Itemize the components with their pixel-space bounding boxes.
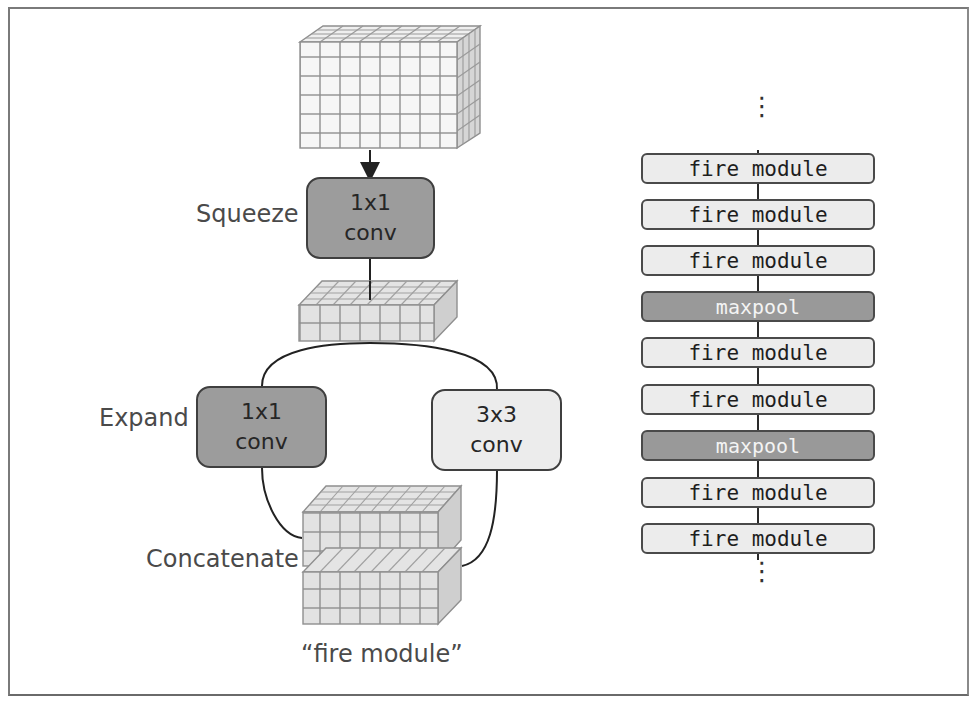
expand-1x1-op: conv [235, 427, 288, 457]
layer-fire-module-4: fire module [641, 337, 875, 368]
squeeze-kernel-size: 1x1 [350, 188, 391, 218]
bottom-ellipsis: ⋮ [749, 562, 775, 580]
output-tensor-bottom [303, 548, 461, 624]
expand-1x1-conv-box: 1x1 conv [196, 386, 327, 468]
squeeze-label: Squeeze [196, 200, 299, 228]
input-tensor [300, 26, 480, 148]
merge-connector-right [462, 470, 497, 566]
split-connector [262, 343, 497, 390]
layer-maxpool-2: maxpool [641, 430, 875, 461]
expand-3x3-op: conv [470, 430, 523, 460]
squeeze-conv-box: 1x1 conv [306, 177, 435, 259]
layer-fire-module-1: fire module [641, 153, 875, 184]
layer-maxpool-1: maxpool [641, 291, 875, 322]
merge-connector-left [262, 468, 302, 538]
expand-1x1-kernel-size: 1x1 [241, 397, 282, 427]
layer-fire-module-5: fire module [641, 384, 875, 415]
expand-3x3-conv-box: 3x3 conv [431, 389, 562, 471]
squeeze-op: conv [344, 218, 397, 248]
expand-3x3-kernel-size: 3x3 [476, 400, 517, 430]
squeezed-tensor [299, 281, 457, 341]
concatenate-label: Concatenate [146, 545, 299, 573]
layer-fire-module-3: fire module [641, 245, 875, 276]
top-ellipsis: ⋮ [749, 97, 775, 115]
layer-fire-module-2: fire module [641, 199, 875, 230]
expand-label: Expand [99, 404, 189, 432]
layer-fire-module-6: fire module [641, 477, 875, 508]
layer-fire-module-7: fire module [641, 523, 875, 554]
fire-module-caption: “fire module” [301, 640, 463, 668]
